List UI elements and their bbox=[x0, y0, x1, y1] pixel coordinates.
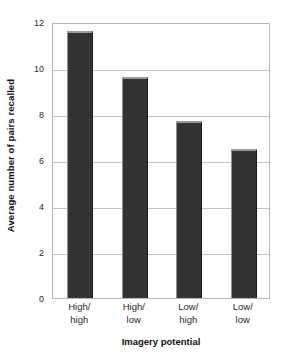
bar-slot bbox=[162, 24, 217, 298]
x-axis-title: Imagery potential bbox=[52, 336, 270, 347]
x-axis-tick-label: Low/high bbox=[161, 301, 216, 326]
x-axis-tick-label-line: low bbox=[216, 314, 271, 327]
x-axis-tick-labels: High/highHigh/lowLow/highLow/low bbox=[52, 301, 270, 335]
x-axis-tick-label-line: Low/ bbox=[216, 301, 271, 314]
bars-layer bbox=[53, 24, 269, 298]
y-axis-title-text: Average number of pairs recalled bbox=[6, 78, 17, 231]
bar-slot bbox=[108, 24, 163, 298]
y-axis-tick-labels: 024681012 bbox=[22, 23, 48, 299]
x-axis-tick-label-line: Low/ bbox=[161, 301, 216, 314]
x-axis-tick-label-line: low bbox=[107, 314, 162, 327]
bar-slot bbox=[53, 24, 108, 298]
plot-area bbox=[52, 23, 270, 299]
y-axis-tick-label: 8 bbox=[39, 110, 44, 120]
y-axis-tick-label: 0 bbox=[39, 294, 44, 304]
x-axis-tick-label: High/low bbox=[107, 301, 162, 326]
bar[interactable] bbox=[122, 77, 148, 298]
x-axis-tick-label: High/high bbox=[52, 301, 107, 326]
bar[interactable] bbox=[176, 121, 202, 298]
bar[interactable] bbox=[67, 31, 93, 298]
y-axis-tick-label: 12 bbox=[34, 18, 44, 28]
y-axis-tick-label: 6 bbox=[39, 156, 44, 166]
y-axis-tick-label: 10 bbox=[34, 64, 44, 74]
y-axis-title: Average number of pairs recalled bbox=[0, 0, 22, 310]
x-axis-tick-label-line: High/ bbox=[52, 301, 107, 314]
x-axis-tick-label-line: high bbox=[52, 314, 107, 327]
x-axis-tick-label-line: High/ bbox=[107, 301, 162, 314]
x-axis-tick-label-line: high bbox=[161, 314, 216, 327]
bar-chart: Average number of pairs recalled 0246810… bbox=[0, 0, 286, 358]
bar-slot bbox=[217, 24, 271, 298]
bar[interactable] bbox=[231, 149, 257, 299]
x-axis-tick-label: Low/low bbox=[216, 301, 271, 326]
y-axis-tick-label: 2 bbox=[39, 248, 44, 258]
y-axis-tick-label: 4 bbox=[39, 202, 44, 212]
